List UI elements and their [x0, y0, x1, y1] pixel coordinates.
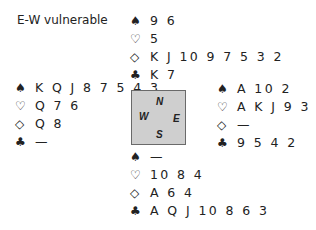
south-spades-cards: — [150, 148, 165, 166]
south-diamonds-cards: A 6 4 [150, 184, 194, 202]
north-spades-row: ♠ 9 6 [130, 12, 284, 30]
east-spades-cards: A 10 2 [237, 80, 292, 98]
south-hand: ♠ — ♡ 10 8 4 ◇ A 6 4 ♣ A Q J 10 8 6 3 [130, 148, 269, 220]
heart-icon: ♡ [15, 97, 35, 115]
diamond-icon: ◇ [130, 184, 150, 202]
south-diamonds-row: ◇ A 6 4 [130, 184, 269, 202]
south-clubs-cards: A Q J 10 8 6 3 [150, 202, 269, 220]
north-diamonds-cards: K J 10 9 7 5 3 2 [150, 48, 284, 66]
east-hand: ♠ A 10 2 ♡ A K J 9 3 2 ◇ — ♣ 9 5 4 2 [217, 80, 316, 152]
east-diamonds-cards: — [237, 116, 252, 134]
north-hearts-cards: 5 [150, 30, 160, 48]
compass-table: N W E S [131, 90, 186, 145]
compass-south-label: S [156, 129, 163, 140]
east-hearts-row: ♡ A K J 9 3 2 [217, 98, 316, 116]
heart-icon: ♡ [130, 166, 150, 184]
compass-west-label: W [139, 111, 148, 122]
vulnerability-label: E-W vulnerable [17, 13, 108, 27]
spade-icon: ♠ [15, 79, 35, 97]
north-hand: ♠ 9 6 ♡ 5 ◇ K J 10 9 7 5 3 2 ♣ K 7 [130, 12, 284, 84]
north-diamonds-row: ◇ K J 10 9 7 5 3 2 [130, 48, 284, 66]
west-clubs-cards: — [35, 133, 50, 151]
west-diamonds-cards: Q 8 [35, 115, 64, 133]
north-spades-cards: 9 6 [150, 12, 177, 30]
south-spades-row: ♠ — [130, 148, 269, 166]
heart-icon: ♡ [130, 30, 150, 48]
east-hearts-cards: A K J 9 3 2 [237, 98, 316, 116]
compass-east-label: E [173, 113, 180, 124]
west-hearts-cards: Q 7 6 [35, 97, 81, 115]
east-spades-row: ♠ A 10 2 [217, 80, 316, 98]
south-hearts-cards: 10 8 4 [150, 166, 204, 184]
compass-north-label: N [156, 96, 163, 107]
diamond-icon: ◇ [15, 115, 35, 133]
spade-icon: ♠ [217, 80, 237, 98]
spade-icon: ♠ [130, 12, 150, 30]
east-diamonds-row: ◇ — [217, 116, 316, 134]
spade-icon: ♠ [130, 148, 150, 166]
north-hearts-row: ♡ 5 [130, 30, 284, 48]
diamond-icon: ◇ [130, 48, 150, 66]
club-icon: ♣ [130, 202, 150, 220]
club-icon: ♣ [15, 133, 35, 151]
diamond-icon: ◇ [217, 116, 237, 134]
heart-icon: ♡ [217, 98, 237, 116]
south-clubs-row: ♣ A Q J 10 8 6 3 [130, 202, 269, 220]
south-hearts-row: ♡ 10 8 4 [130, 166, 269, 184]
